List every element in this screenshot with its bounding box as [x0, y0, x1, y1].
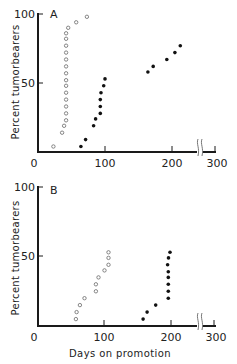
y-tick-label-100: 100	[14, 8, 35, 21]
filled-circle-marker	[92, 124, 96, 128]
y-tick-label-50: 50	[21, 77, 35, 90]
open-circle-marker	[83, 297, 86, 300]
y-tick-label-100: 100	[14, 181, 35, 194]
data-points-a	[52, 15, 182, 148]
open-circle-marker	[64, 32, 67, 35]
open-circle-marker	[64, 72, 67, 75]
axis-break-icon	[201, 139, 202, 156]
filled-circle-marker	[154, 303, 158, 307]
filled-circle-marker	[167, 290, 171, 294]
filled-circle-marker	[102, 84, 106, 88]
open-circle-marker	[64, 119, 67, 122]
open-circle-marker	[67, 26, 70, 29]
filled-circle-marker	[84, 138, 88, 142]
panel-b-chart: 100 50 0 100 200 300 B Percent tumorbear…	[10, 181, 227, 359]
open-circle-marker	[75, 310, 78, 313]
open-circle-marker	[75, 21, 78, 24]
open-circle-marker	[64, 58, 67, 61]
open-circle-marker	[64, 44, 67, 47]
filled-circle-marker	[99, 105, 103, 109]
axis-break-icon	[201, 313, 202, 330]
filled-circle-marker	[167, 283, 171, 287]
panel-label-b: B	[50, 184, 58, 197]
filled-circle-marker	[167, 256, 171, 260]
filled-circle-marker	[165, 58, 169, 62]
open-circle-marker	[60, 131, 63, 134]
filled-circle-marker	[79, 145, 83, 149]
axis-break-icon	[197, 313, 198, 330]
x-tick-label-100: 100	[94, 331, 115, 344]
x-tick-label-100: 100	[95, 157, 116, 170]
figure: 100 50 0 100 200 300 A Percent tumorbear…	[0, 0, 237, 364]
filled-circle-marker	[168, 251, 172, 255]
filled-circle-marker	[173, 51, 177, 55]
filled-circle-marker	[99, 112, 103, 116]
open-circle-marker	[107, 263, 110, 266]
x-axis-label: Days on promotion	[69, 348, 171, 359]
filled-circle-marker	[179, 44, 183, 48]
open-circle-marker	[107, 256, 110, 259]
filled-circle-marker	[145, 310, 149, 314]
open-circle-marker	[103, 269, 106, 272]
filled-circle-marker	[167, 296, 171, 300]
open-circle-marker	[64, 91, 67, 94]
x-tick-label-200: 200	[161, 331, 182, 344]
open-circle-marker	[78, 303, 81, 306]
open-circle-marker	[74, 317, 77, 320]
open-circle-marker	[64, 98, 67, 101]
filled-circle-marker	[151, 65, 155, 69]
open-circle-marker	[62, 124, 65, 127]
x-tick-label-0: 0	[31, 331, 38, 344]
panel-a-chart: 100 50 0 100 200 300 A Percent tumorbear…	[10, 8, 228, 170]
filled-circle-marker	[141, 317, 145, 321]
filled-circle-marker	[99, 98, 103, 102]
open-circle-marker	[64, 79, 67, 82]
axis-break-icon	[197, 139, 198, 156]
filled-circle-marker	[167, 270, 171, 274]
open-circle-marker	[97, 276, 100, 279]
y-axis-label: Percent tumorbearers	[10, 200, 21, 315]
data-points-b	[74, 251, 172, 321]
open-circle-marker	[64, 51, 67, 54]
x-tick-label-300: 300	[206, 331, 227, 344]
filled-circle-marker	[146, 70, 150, 74]
open-circle-marker	[64, 37, 67, 40]
x-tick-label-300: 300	[207, 157, 228, 170]
x-tick-label-200: 200	[162, 157, 183, 170]
y-axis-label: Percent tumorbearers	[10, 24, 21, 139]
open-circle-marker	[94, 290, 97, 293]
x-tick-label-0: 0	[31, 157, 38, 170]
open-circle-marker	[107, 251, 110, 254]
open-circle-marker	[85, 15, 88, 18]
filled-circle-marker	[94, 117, 98, 121]
open-circle-marker	[64, 105, 67, 108]
filled-circle-marker	[99, 91, 103, 95]
panel-label-a: A	[50, 8, 58, 21]
open-circle-marker	[64, 65, 67, 68]
open-circle-marker	[94, 283, 97, 286]
filled-circle-marker	[103, 77, 107, 81]
y-tick-label-50: 50	[21, 250, 35, 263]
filled-circle-marker	[167, 276, 171, 280]
filled-circle-marker	[166, 263, 170, 267]
open-circle-marker	[52, 145, 55, 148]
open-circle-marker	[64, 84, 67, 87]
open-circle-marker	[64, 112, 67, 115]
